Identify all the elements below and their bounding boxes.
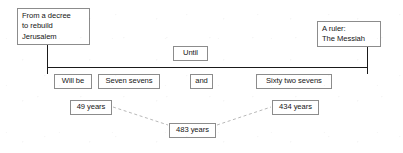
connector-483-to-434 [217, 107, 271, 125]
end-connector-stem [367, 47, 368, 62]
duration-box-483-years: 483 years [169, 123, 216, 138]
start-caption-box: From a decree to rebuild Jerusalem [17, 8, 90, 45]
duration-box-434-years: 434 years [272, 100, 319, 115]
timeline-diagram: From a decree to rebuild Jerusalem A rul… [0, 0, 403, 153]
duration-box-49-years: 49 years [70, 100, 112, 115]
timeline-end-cap [367, 61, 368, 74]
connector-49-to-483 [113, 107, 168, 125]
timeline-start-cap [47, 61, 48, 74]
axis-label-until: Until [173, 46, 208, 61]
segment-label-and: and [190, 74, 213, 89]
segment-label-sixty-two-sevens: Sixty two sevens [256, 74, 332, 89]
segment-label-seven-sevens: Seven sevens [98, 74, 160, 89]
timeline-axis [47, 67, 367, 68]
segment-label-will-be: Will be [54, 74, 92, 89]
end-caption-box: A ruler: The Messiah [317, 21, 381, 47]
start-connector-stem [47, 45, 48, 62]
